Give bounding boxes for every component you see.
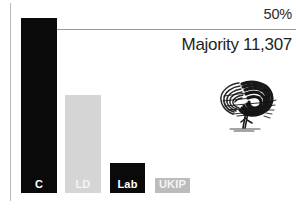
bar-label-lab: Lab — [110, 179, 145, 190]
bar-ukip[interactable]: UKIP — [155, 178, 190, 193]
bar-label-ukip: UKIP — [155, 179, 190, 190]
bar-lab[interactable]: Lab — [110, 163, 145, 193]
election-bar-chart: 50% Majority 11,307 CLDLabUKIP — [0, 0, 296, 214]
conservative-tree-logo — [212, 74, 280, 134]
bar-ld[interactable]: LD — [65, 95, 101, 193]
bar-label-ld: LD — [65, 179, 101, 190]
bar-c[interactable]: C — [21, 18, 57, 193]
bar-label-c: C — [21, 179, 57, 190]
